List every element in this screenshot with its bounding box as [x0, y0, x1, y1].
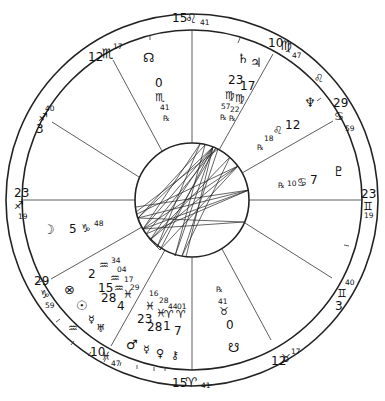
svg-text:23: 23 [361, 187, 376, 201]
svg-text:7: 7 [310, 173, 318, 187]
svg-text:5: 5 [69, 222, 77, 236]
cusp-6: 29 ♑ 59 [34, 274, 55, 310]
cusp-8: 40 ♐ 3 [36, 104, 55, 136]
planet-mars-venus-group: 16 ♓ 28 ♓ 44 ♈ 01 ♈ 23 28 1 7 ♂ ☿ ♀ ⚷ [126, 289, 187, 362]
svg-text:♉: ♉ [219, 305, 229, 318]
svg-text:♋: ♋ [297, 176, 307, 189]
svg-text:12: 12 [88, 50, 103, 64]
svg-text:℞: ℞ [216, 285, 223, 294]
svg-text:17: 17 [240, 79, 255, 93]
svg-text:♌: ♌ [273, 124, 283, 137]
svg-text:♐: ♐ [14, 199, 24, 212]
svg-text:23: 23 [14, 186, 29, 200]
svg-text:♌: ♌ [185, 11, 197, 26]
svg-text:41: 41 [200, 18, 210, 27]
svg-text:℞: ℞ [163, 114, 170, 123]
planet-pluto: ♇ 7 ♋ 10 ℞ [278, 164, 345, 190]
svg-text:♈: ♈ [176, 308, 186, 321]
svg-text:10: 10 [287, 179, 297, 188]
svg-text:19: 19 [364, 211, 374, 220]
svg-text:47: 47 [111, 359, 121, 368]
svg-text:℞: ℞ [257, 143, 264, 152]
svg-text:♉: ♉ [281, 352, 291, 365]
svg-text:47: 47 [292, 51, 302, 60]
svg-text:☿: ☿ [88, 313, 95, 326]
cusp-asc-right: 23 ♊ 19 [361, 187, 376, 220]
svg-text:59: 59 [345, 124, 355, 133]
svg-text:♒: ♒ [99, 259, 109, 272]
cusp-3: 12 ♉ 17 [271, 347, 301, 368]
svg-text:12: 12 [285, 118, 300, 132]
planet-saturn-jupiter: ♄ ♃ 23 17 ♍ ♍ 57 22 ℞ ℞ [220, 51, 262, 123]
svg-text:♄: ♄ [237, 51, 249, 66]
svg-text:2: 2 [88, 267, 96, 281]
svg-text:♌: ♌ [314, 72, 324, 85]
svg-text:28: 28 [147, 320, 162, 334]
svg-text:℞: ℞ [220, 113, 227, 122]
svg-text:♃: ♃ [250, 55, 262, 70]
svg-text:♑: ♑ [81, 222, 91, 235]
svg-text:⊗: ⊗ [64, 282, 75, 297]
cusp-9: 12 ♏ 17 [88, 42, 123, 64]
cusp-11: 10 ♍ 47 [268, 36, 302, 60]
svg-text:17: 17 [291, 347, 301, 356]
planet-neptune: ♆ ♌ 12 ♌ 18 ℞ [257, 72, 324, 152]
svg-text:29: 29 [34, 274, 49, 288]
svg-text:☉: ☉ [76, 298, 88, 313]
svg-text:22: 22 [230, 105, 240, 114]
svg-text:29: 29 [333, 96, 348, 110]
svg-text:♋: ♋ [334, 110, 344, 123]
svg-text:04: 04 [117, 265, 127, 274]
svg-text:0: 0 [226, 318, 234, 332]
svg-text:℞: ℞ [278, 181, 285, 190]
svg-text:♈: ♈ [185, 375, 197, 390]
planet-south-node: ℞ 41 ♉ 0 ☋ [216, 285, 240, 355]
svg-text:♓: ♓ [101, 350, 111, 363]
svg-text:⚷: ⚷ [171, 349, 179, 362]
svg-text:34: 34 [111, 256, 121, 265]
svg-text:♅: ♅ [96, 322, 106, 335]
svg-text:☿: ☿ [143, 343, 150, 356]
svg-text:7: 7 [174, 324, 182, 338]
svg-text:♆: ♆ [304, 95, 316, 110]
svg-text:♂: ♂ [126, 337, 138, 352]
svg-text:♑: ♑ [40, 288, 50, 301]
svg-text:18: 18 [264, 134, 274, 143]
svg-text:☊: ☊ [143, 50, 155, 65]
svg-text:♍: ♍ [235, 92, 245, 105]
svg-text:♒: ♒ [68, 322, 78, 335]
planet-fortune-sun-group: ⊗ ☉ ☿ ♅ ♒ 2 ♒ 34 15 ♒ 04 28 ♒ 17 4 ♓ 29 [64, 256, 140, 335]
svg-text:4: 4 [117, 299, 125, 313]
planet-moon: ☽ 5 ♑ 48 [43, 219, 104, 237]
svg-text:41: 41 [160, 103, 170, 112]
svg-text:3: 3 [36, 122, 44, 136]
cusp-ic: 15 ♈ 41 [172, 375, 211, 390]
svg-text:3: 3 [335, 299, 343, 313]
svg-text:♇: ♇ [333, 164, 345, 179]
svg-text:0: 0 [155, 76, 163, 90]
svg-text:♀: ♀ [156, 347, 164, 360]
svg-text:17: 17 [113, 42, 123, 51]
svg-text:℞: ℞ [229, 114, 236, 123]
svg-text:☽: ☽ [43, 222, 55, 237]
svg-text:59: 59 [45, 301, 55, 310]
svg-text:☋: ☋ [228, 340, 240, 355]
svg-text:40: 40 [345, 278, 355, 287]
svg-text:48: 48 [94, 219, 104, 228]
astrology-chart-wheel: 15 ♌ 41 10 ♍ 47 29 ♋ 59 23 ♊ 19 40 ♊ 3 1… [0, 0, 385, 401]
cusp-dsc-left: 23 ♐ 19 [14, 186, 29, 221]
planet-north-node: ☊ 0 ♏ 41 ℞ [143, 50, 170, 123]
cusp-12: 29 ♋ 59 [333, 96, 355, 133]
svg-text:♍: ♍ [280, 38, 292, 53]
house-cusp-lines [22, 30, 362, 370]
svg-text:1: 1 [163, 319, 171, 333]
svg-text:41: 41 [201, 381, 211, 390]
svg-text:29: 29 [130, 283, 140, 292]
degree-ticks [37, 35, 349, 371]
cusp-mc: 15 ♌ 41 [172, 11, 210, 27]
svg-text:♍: ♍ [225, 89, 235, 102]
svg-text:19: 19 [18, 212, 28, 221]
svg-text:16: 16 [149, 289, 159, 298]
svg-text:♏: ♏ [102, 46, 114, 61]
